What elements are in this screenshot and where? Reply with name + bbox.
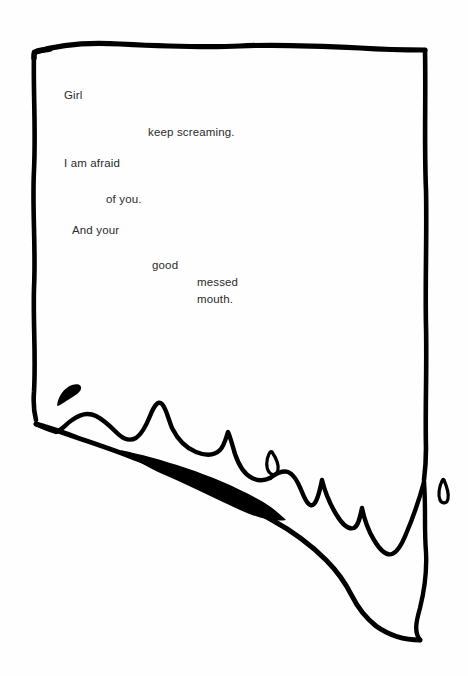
poem-line: of you. <box>106 193 142 206</box>
artwork-page: Girl keep screaming. I am afraid of you.… <box>0 0 468 676</box>
poem-line: messed <box>197 276 238 289</box>
poem-text-layer: Girl keep screaming. I am afraid of you.… <box>0 0 468 676</box>
poem-line: I am afraid <box>64 157 120 170</box>
poem-line: mouth. <box>197 293 233 306</box>
poem-line: Girl <box>64 89 83 102</box>
poem-line: good <box>152 259 178 272</box>
poem-line: And your <box>72 224 119 237</box>
poem-line: keep screaming. <box>148 126 235 139</box>
